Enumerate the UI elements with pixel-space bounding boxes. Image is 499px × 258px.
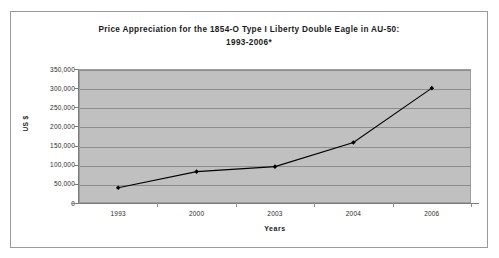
x-axis-title: Years [79, 225, 471, 232]
y-axis-tick-label: 50,000 [29, 180, 75, 187]
y-axis-tick-label: 0 [29, 200, 75, 207]
x-axis-tick-mark [236, 203, 237, 207]
data-point-marker [273, 164, 278, 169]
plot-area-wrapper [79, 69, 471, 203]
x-axis-tick-label: 1993 [111, 210, 126, 218]
chart-title-line-2: 1993-2006* [39, 36, 459, 49]
x-axis-tick-label: 2000 [189, 210, 204, 218]
chart-title-line-1: Price Appreciation for the 1854-O Type I… [98, 25, 399, 34]
y-axis-tick-label: 150,000 [29, 142, 75, 149]
x-axis-line [71, 203, 479, 204]
y-axis-tick-label: 100,000 [29, 161, 75, 168]
x-axis-tick-label: 2003 [267, 210, 282, 218]
chart-title: Price Appreciation for the 1854-O Type I… [39, 23, 459, 49]
x-axis-tick-labels: 19932000200320042006 [79, 210, 471, 222]
x-axis-tick-mark [157, 203, 158, 207]
x-axis-tick-label: 2004 [346, 210, 361, 218]
data-point-marker [194, 169, 199, 174]
series-line [118, 88, 432, 188]
y-axis-tick-label: 300,000 [29, 85, 75, 92]
y-axis-tick-label: 250,000 [29, 104, 75, 111]
data-point-marker [116, 185, 121, 190]
y-axis-tick-label: 200,000 [29, 123, 75, 130]
chart-frame: Price Appreciation for the 1854-O Type I… [10, 11, 488, 248]
series-line-chart [79, 69, 471, 203]
x-axis-tick-mark [314, 203, 315, 207]
y-axis-tick-labels: 350,000300,000250,000200,000150,000100,0… [25, 69, 75, 203]
x-axis-tick-mark [471, 203, 472, 207]
x-axis-tick-mark [393, 203, 394, 207]
x-axis-tick-label: 2006 [424, 210, 439, 218]
y-axis-tick-label: 350,000 [29, 66, 75, 73]
